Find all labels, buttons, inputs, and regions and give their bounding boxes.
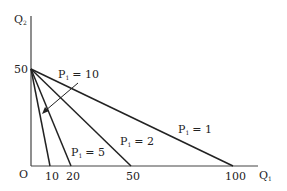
- budget-line-p1: [31, 69, 233, 166]
- label-p1: P1= 1: [178, 123, 212, 136]
- budget-line-diagram: Q2 Q1 O 50 10 20 50 100 P1= 10 P1= 5 P1=…: [0, 0, 287, 191]
- label-p2: P1= 2: [120, 135, 154, 148]
- x-tick-10: 10: [45, 170, 59, 183]
- label-p10: P1= 10: [58, 68, 99, 81]
- budget-line-p10: [31, 69, 50, 166]
- x-axis-label: Q1: [259, 169, 272, 182]
- y-axis-label: Q2: [14, 13, 27, 26]
- origin-label: O: [19, 168, 28, 181]
- x-tick-100: 100: [225, 170, 246, 183]
- x-tick-50: 50: [126, 170, 140, 183]
- label-p5: P1= 5: [71, 146, 105, 159]
- y-tick-50: 50: [14, 63, 28, 76]
- budget-line-p5: [31, 69, 71, 166]
- x-tick-20: 20: [66, 170, 80, 183]
